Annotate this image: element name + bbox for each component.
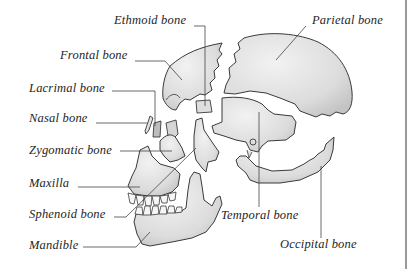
lacrimal-bone-shape bbox=[153, 121, 161, 137]
temporal-bone-shape bbox=[212, 97, 296, 152]
nasal-bone-shape bbox=[145, 116, 153, 134]
label-ethmoid-bone: Ethmoid bone bbox=[114, 13, 186, 27]
ethmoid-bone-shape bbox=[196, 100, 212, 113]
label-occipital-bone: Occipital bone bbox=[280, 237, 357, 251]
label-temporal-bone: Temporal bone bbox=[221, 208, 299, 222]
label-frontal-bone: Frontal bone bbox=[60, 48, 128, 62]
skull-diagram: Ethmoid bone Frontal bone Lacrimal bone … bbox=[0, 0, 414, 269]
zygomatic-bone-shape bbox=[160, 135, 185, 162]
label-nasal-bone: Nasal bone bbox=[29, 111, 88, 125]
label-sphenoid-bone: Sphenoid bone bbox=[29, 207, 106, 221]
right-border-line bbox=[405, 0, 407, 269]
label-maxilla: Maxilla bbox=[29, 176, 69, 190]
label-zygomatic-bone: Zygomatic bone bbox=[29, 143, 112, 157]
label-parietal-bone: Parietal bone bbox=[312, 13, 383, 27]
skull-illustration bbox=[0, 0, 414, 269]
label-lacrimal-bone: Lacrimal bone bbox=[29, 81, 105, 95]
label-mandible: Mandible bbox=[29, 238, 79, 252]
frontal-bone-shape bbox=[163, 43, 222, 110]
